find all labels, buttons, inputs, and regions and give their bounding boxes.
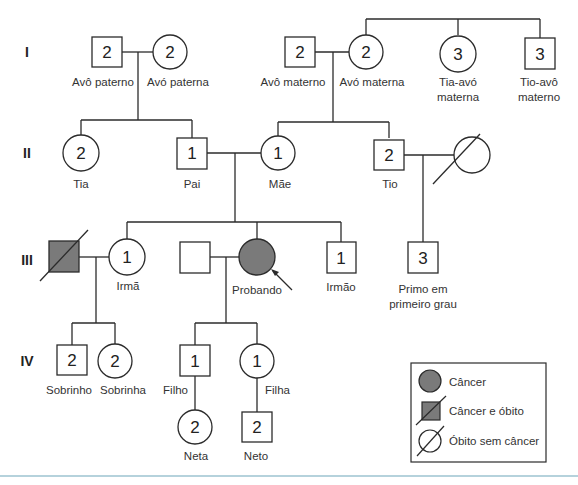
svg-text:Filha: Filha bbox=[265, 384, 291, 396]
irmao: 1 Irmão bbox=[326, 242, 356, 293]
pai: 1 Pai bbox=[177, 138, 207, 190]
tio-esposa-obito-sem-cancer bbox=[433, 134, 490, 184]
generation-label-IV: IV bbox=[20, 353, 34, 369]
svg-text:2: 2 bbox=[252, 418, 261, 437]
pedigree-chart: I II III IV bbox=[0, 0, 578, 485]
filho: 1 Filho bbox=[163, 345, 210, 396]
svg-text:Neto: Neto bbox=[244, 450, 268, 462]
sobrinha: 2 Sobrinha bbox=[98, 344, 147, 396]
svg-text:2: 2 bbox=[190, 418, 199, 437]
svg-text:Câncer: Câncer bbox=[449, 376, 486, 388]
generation-label-III: III bbox=[21, 252, 33, 268]
legend: Câncer Câncer e óbito Óbito sem câncer bbox=[411, 363, 546, 462]
svg-text:primeiro grau: primeiro grau bbox=[389, 298, 457, 310]
svg-text:Câncer e óbito: Câncer e óbito bbox=[449, 405, 524, 417]
svg-text:Sobrinho: Sobrinho bbox=[46, 384, 92, 396]
mae: 1 Mãe bbox=[261, 136, 295, 190]
avo-paterno: 2 Avô paterno bbox=[72, 37, 134, 88]
svg-text:1: 1 bbox=[252, 352, 261, 371]
svg-text:1: 1 bbox=[190, 352, 199, 371]
generation-label-I: I bbox=[25, 44, 29, 60]
svg-text:2: 2 bbox=[361, 43, 370, 62]
svg-text:Irmão: Irmão bbox=[326, 281, 355, 293]
svg-text:2: 2 bbox=[102, 43, 111, 62]
tio: 2 Tio bbox=[374, 140, 404, 190]
svg-text:Neta: Neta bbox=[184, 450, 209, 462]
svg-text:Tio: Tio bbox=[382, 178, 398, 190]
irma: 1 Irmã bbox=[109, 239, 145, 292]
svg-text:Tio-avô: Tio-avô bbox=[520, 76, 558, 88]
svg-text:Pai: Pai bbox=[184, 178, 201, 190]
conjuge-probando bbox=[180, 242, 210, 273]
svg-text:Filho: Filho bbox=[163, 384, 188, 396]
svg-text:2: 2 bbox=[76, 144, 85, 163]
svg-text:Probando: Probando bbox=[232, 284, 282, 296]
svg-text:Irmã: Irmã bbox=[117, 280, 141, 292]
filha: 1 Filha bbox=[240, 344, 291, 396]
svg-text:2: 2 bbox=[384, 146, 393, 165]
probando: Probando bbox=[232, 239, 292, 296]
generation-label-II: II bbox=[23, 145, 31, 161]
svg-text:1: 1 bbox=[336, 249, 345, 268]
svg-text:1: 1 bbox=[122, 248, 131, 267]
svg-text:2: 2 bbox=[165, 43, 174, 62]
svg-text:3: 3 bbox=[535, 45, 544, 64]
svg-text:Mãe: Mãe bbox=[269, 178, 291, 190]
neta: 2 Neta bbox=[178, 410, 212, 462]
filled-circle-icon bbox=[419, 370, 441, 392]
avo-paterna: 2 Avó paterna bbox=[147, 35, 209, 88]
svg-text:1: 1 bbox=[273, 144, 282, 163]
svg-text:Avô materno: Avô materno bbox=[261, 76, 326, 88]
cunhado-cancer-obito bbox=[40, 230, 88, 281]
svg-text:Avó paterna: Avó paterna bbox=[147, 76, 209, 88]
svg-text:Óbito sem câncer: Óbito sem câncer bbox=[449, 435, 539, 447]
primo-primeiro-grau: 3 Primo em primeiro grau bbox=[389, 242, 457, 310]
svg-text:2: 2 bbox=[67, 351, 76, 370]
tia: 2 Tia bbox=[63, 135, 99, 190]
svg-text:1: 1 bbox=[187, 144, 196, 163]
tia-avo-materna: 3 Tia-avó materna bbox=[437, 36, 480, 103]
svg-text:Avó materna: Avó materna bbox=[340, 76, 406, 88]
svg-text:Avô paterno: Avô paterno bbox=[72, 76, 134, 88]
neto: 2 Neto bbox=[242, 412, 272, 462]
svg-text:materna: materna bbox=[437, 91, 480, 103]
tio-avo-materno: 3 Tio-avô materno bbox=[518, 38, 560, 103]
avo-materno: 2 Avô materno bbox=[261, 37, 326, 88]
avo-materna: 2 Avó materna bbox=[340, 35, 406, 88]
svg-text:3: 3 bbox=[453, 45, 462, 64]
svg-text:Sobrinha: Sobrinha bbox=[100, 384, 147, 396]
svg-text:Primo em: Primo em bbox=[398, 283, 447, 295]
svg-text:3: 3 bbox=[418, 249, 427, 268]
svg-text:2: 2 bbox=[295, 43, 304, 62]
deceased-slash-icon bbox=[40, 230, 88, 281]
sobrinho: 2 Sobrinho bbox=[46, 345, 92, 396]
svg-text:materno: materno bbox=[518, 91, 560, 103]
svg-text:2: 2 bbox=[110, 352, 119, 371]
svg-text:Tia: Tia bbox=[73, 178, 89, 190]
svg-text:Tia-avó: Tia-avó bbox=[439, 76, 477, 88]
